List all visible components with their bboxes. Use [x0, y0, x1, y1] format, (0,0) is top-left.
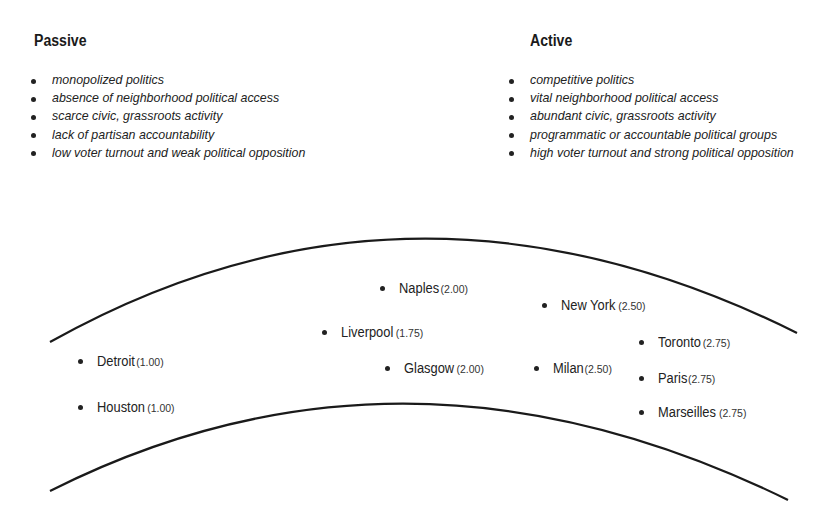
- city-marseilles: Marseilles (2.75): [639, 403, 746, 421]
- city-score: (2.75): [688, 373, 715, 385]
- city-naples: Naples (2.00): [380, 279, 468, 297]
- bullet-icon: [322, 330, 327, 335]
- city-score: (2.00): [441, 283, 468, 295]
- city-new-york: New York (2.50): [542, 296, 646, 314]
- bullet-icon: [639, 376, 644, 381]
- city-name: Detroit: [97, 352, 135, 370]
- bullet-icon: [385, 366, 390, 371]
- city-score: (1.00): [136, 356, 163, 368]
- bullet-icon: [639, 340, 644, 345]
- city-score: (2.75): [703, 337, 730, 349]
- bullet-icon: [639, 410, 644, 415]
- city-name: Liverpool: [341, 323, 393, 341]
- city-score: (2.00): [456, 363, 483, 375]
- city-name: Toronto: [658, 333, 701, 351]
- city-name: Glasgow: [404, 359, 454, 377]
- city-paris: Paris (2.75): [639, 369, 715, 387]
- city-detroit: Detroit (1.00): [78, 352, 164, 370]
- city-name: Marseilles: [658, 403, 716, 421]
- city-score: (2.75): [719, 407, 746, 419]
- city-score: (2.50): [584, 363, 611, 375]
- city-liverpool: Liverpool (1.75): [322, 323, 423, 341]
- bullet-icon: [78, 359, 83, 364]
- city-name: Houston: [97, 398, 145, 416]
- city-toronto: Toronto (2.75): [639, 333, 730, 351]
- bullet-icon: [542, 303, 547, 308]
- city-glasgow: Glasgow (2.00): [385, 359, 484, 377]
- city-name: Naples: [399, 279, 439, 297]
- city-score: (1.75): [396, 327, 423, 339]
- city-name: Paris: [658, 369, 687, 387]
- city-score: (2.50): [618, 300, 645, 312]
- city-score: (1.00): [147, 402, 174, 414]
- arc-band: [0, 0, 834, 507]
- city-name: Milan: [553, 359, 584, 377]
- bullet-icon: [78, 405, 83, 410]
- bullet-icon: [380, 286, 385, 291]
- city-houston: Houston (1.00): [78, 398, 175, 416]
- city-milan: Milan (2.50): [534, 359, 612, 377]
- bullet-icon: [534, 366, 539, 371]
- city-name: New York: [561, 296, 615, 314]
